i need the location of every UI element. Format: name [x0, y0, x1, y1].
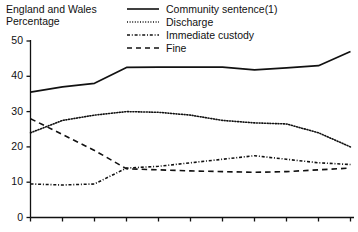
y-axis-tick-label: 30: [3, 106, 23, 117]
y-axis-tick-label: 50: [3, 35, 23, 46]
y-axis-tick-label: 20: [3, 141, 23, 152]
y-axis-tick-label: 10: [3, 176, 23, 187]
chart-plot-area: [0, 0, 358, 232]
y-axis-tick-label: 0: [3, 212, 23, 223]
chart-figure: England and Wales Percentage Community s…: [0, 0, 358, 232]
series-line-community-sentence-1: [31, 52, 351, 93]
series-line-fine: [31, 119, 351, 173]
series-line-discharge: [31, 112, 351, 147]
y-axis-tick-label: 40: [3, 70, 23, 81]
chart-series: [31, 52, 351, 185]
